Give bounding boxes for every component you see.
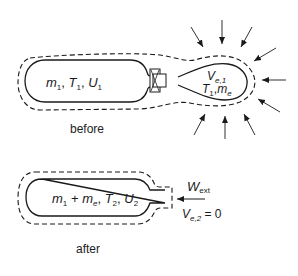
after-caption: after <box>76 242 100 256</box>
final-volume-label: Ve,2 = 0 <box>182 207 222 223</box>
arrow-icon <box>191 27 203 47</box>
after-tank-label: m1 + me, T2, U2 <box>52 191 139 208</box>
arrow-icon <box>241 27 252 47</box>
before-caption: before <box>70 122 104 136</box>
arrow-icon <box>254 48 276 61</box>
external-work-label: Wext <box>187 179 211 195</box>
atmosphere-pressure-arrows <box>191 20 286 139</box>
arrow-icon <box>258 99 280 112</box>
valve-icon <box>150 69 166 92</box>
before-tank-label: m1, T1, U1 <box>46 75 103 92</box>
arrow-icon <box>194 114 205 135</box>
before-balloon-state-label: T1,me <box>202 82 232 98</box>
diagram-canvas: m1, T1, U1 Ve,1 T1,me before m1 + me, T2… <box>0 0 298 276</box>
arrow-icon <box>244 114 255 135</box>
after-tank <box>26 179 165 216</box>
after-system: m1 + me, T2, U2 Wext Ve,2 = 0 after <box>18 172 222 256</box>
before-system: m1, T1, U1 Ve,1 T1,me before <box>18 54 255 136</box>
